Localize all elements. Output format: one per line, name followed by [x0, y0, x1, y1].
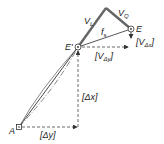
- point-e-prime-marker: [75, 44, 81, 50]
- point-e-marker: [128, 26, 134, 32]
- label-v-delta-x: [VΔx]: [135, 37, 155, 48]
- label-point-e-prime: E': [65, 42, 73, 52]
- label-point-a: A: [8, 126, 15, 136]
- diagram-canvas: VL VQ fs E E' A [VΔy] [VΔx] [Δx] [Δy]: [0, 0, 164, 144]
- label-v-delta-y: [VΔy]: [94, 51, 114, 62]
- label-v-q: VQ: [118, 8, 129, 19]
- point-a-marker: [17, 125, 22, 130]
- label-point-e: E: [136, 24, 143, 34]
- label-delta-x: [Δx]: [81, 92, 98, 102]
- label-f-s: fs: [101, 27, 107, 38]
- label-delta-y: [Δy]: [39, 130, 56, 140]
- label-v-l: VL: [84, 16, 93, 27]
- path-a-to-e-prime: [19, 47, 78, 127]
